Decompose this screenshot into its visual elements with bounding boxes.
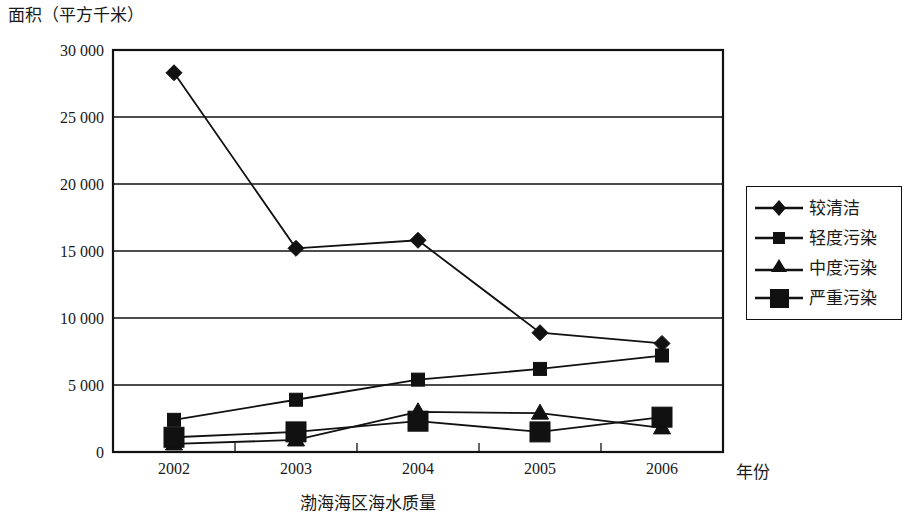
y-tick-label: 0 [96, 444, 104, 461]
data-point-marker [412, 373, 425, 386]
y-axis-tick-labels: 30 00025 00020 00015 00010 0005 0000 [60, 42, 104, 461]
data-point-marker [532, 404, 549, 419]
chart-caption: 渤海海区海水质量 [0, 489, 735, 514]
gridline-group [113, 117, 723, 385]
data-point-marker [534, 362, 547, 375]
large-square-marker-icon [753, 285, 805, 311]
data-point-marker [286, 422, 306, 442]
legend-label-2: 中度污染 [805, 260, 877, 277]
data-point-marker [168, 413, 181, 426]
y-tick-label: 30 000 [60, 42, 104, 59]
y-tick-label: 10 000 [60, 310, 104, 327]
data-point-marker [532, 325, 548, 341]
legend-item-3[interactable]: 严重污染 [753, 283, 897, 313]
data-point-marker [410, 232, 426, 248]
data-point-marker [290, 393, 303, 406]
data-series-group [164, 65, 672, 450]
data-point-marker [652, 407, 672, 427]
triangle-marker-icon [753, 255, 805, 281]
y-tick-label: 25 000 [60, 109, 104, 126]
y-tick-label: 20 000 [60, 176, 104, 193]
x-tick-label: 2004 [402, 460, 434, 477]
small-square-marker-icon [753, 225, 805, 251]
legend-label-0: 较清洁 [805, 200, 860, 217]
x-tick-label: 2003 [280, 460, 312, 477]
x-axis-tick-labels: 20022003200420052006 [158, 460, 678, 477]
chart-figure: 面积（平方千米） 30 00025 00020 00015 00010 0005… [0, 0, 911, 521]
legend-item-0[interactable]: 较清洁 [753, 193, 897, 223]
legend-label-3: 严重污染 [805, 290, 877, 307]
y-tick-label: 15 000 [60, 243, 104, 260]
x-tick-label: 2005 [524, 460, 556, 477]
data-point-marker [164, 427, 184, 447]
data-point-marker [288, 240, 304, 256]
x-tick-label: 2002 [158, 460, 190, 477]
data-point-marker [408, 411, 428, 431]
data-point-marker [166, 65, 182, 81]
chart-legend: 较清洁 轻度污染 中度污染 [746, 186, 902, 320]
legend-item-2[interactable]: 中度污染 [753, 253, 897, 283]
data-series [166, 65, 670, 352]
legend-label-1: 轻度污染 [805, 230, 877, 247]
data-point-marker [530, 422, 550, 442]
y-tick-label: 5 000 [68, 377, 104, 394]
legend-item-1[interactable]: 轻度污染 [753, 223, 897, 253]
x-axis-title: 年份 [736, 458, 770, 483]
x-tick-label: 2006 [646, 460, 678, 477]
data-point-marker [656, 349, 669, 362]
diamond-marker-icon [753, 195, 805, 221]
